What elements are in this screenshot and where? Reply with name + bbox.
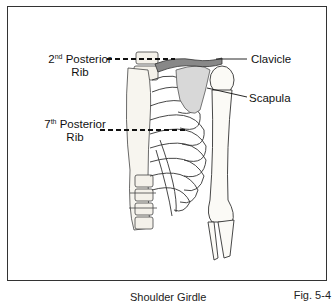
label-word-rib: Rib	[71, 66, 88, 78]
label-word-rib: Rib	[66, 131, 83, 143]
figure-caption: Shoulder Girdle	[130, 291, 206, 303]
label-2nd-posterior-rib: 2nd Posterior Rib	[47, 53, 113, 79]
label-clavicle: Clavicle	[251, 53, 291, 66]
figure-number: Fig. 5-4	[294, 289, 331, 301]
ordinal-suffix: nd	[55, 53, 63, 60]
scapula-shape	[176, 66, 210, 113]
humerus	[208, 66, 234, 260]
ordinal-suffix: th	[51, 118, 57, 125]
label-7th-posterior-rib: 7th Posterior Rib	[42, 118, 108, 144]
label-scapula: Scapula	[249, 92, 291, 105]
spine	[126, 52, 158, 230]
label-word: Posterior	[60, 118, 106, 130]
label-word: Posterior	[66, 53, 112, 65]
